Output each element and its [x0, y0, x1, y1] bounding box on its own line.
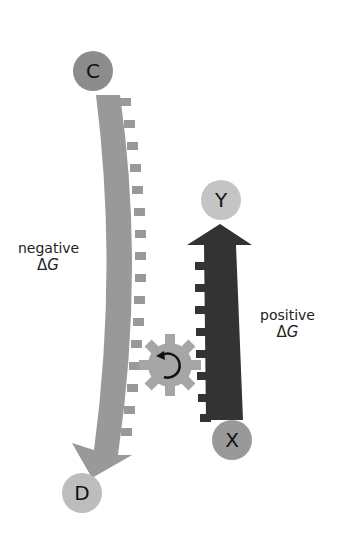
right-arrow-shaft — [187, 224, 252, 420]
delta-g-symbol: ΔG — [255, 324, 320, 341]
gear-icon — [139, 334, 201, 396]
right-arrow-positive — [187, 224, 252, 422]
node-x-label: X — [225, 428, 239, 452]
node-c: C — [73, 51, 113, 91]
positive-word: positive — [255, 307, 320, 324]
node-y-label: Y — [214, 188, 228, 212]
node-d-label: D — [74, 481, 89, 505]
delta-symbol: Δ — [37, 256, 47, 274]
node-d: D — [62, 473, 102, 513]
node-c-label: C — [86, 59, 100, 83]
g-symbol: G — [47, 256, 59, 274]
negative-word: negative — [18, 240, 78, 257]
negative-delta-g-label: negative ΔG — [18, 240, 78, 274]
node-y: Y — [201, 180, 241, 220]
left-arrow-shaft — [72, 95, 132, 478]
left-arrow-negative — [72, 95, 146, 478]
node-x: X — [212, 420, 252, 460]
delta-g-symbol: ΔG — [18, 257, 78, 274]
g-symbol: G — [287, 323, 299, 341]
delta-symbol: Δ — [277, 323, 287, 341]
positive-delta-g-label: positive ΔG — [255, 307, 320, 341]
